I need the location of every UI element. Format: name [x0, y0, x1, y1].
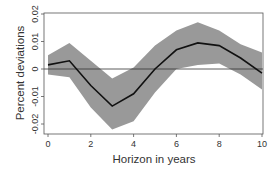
y-axis-label: Percent deviations [14, 25, 26, 120]
y-tick-label: 0.01 [30, 33, 40, 51]
x-tick-label: 6 [174, 139, 179, 149]
x-axis-label: Horizon in years [112, 153, 195, 165]
x-tick-label: 10 [257, 139, 267, 149]
x-tick-label: 0 [45, 139, 50, 149]
y-tick-label: -0.01 [30, 86, 40, 107]
x-tick-label: 8 [217, 139, 222, 149]
x-tick-label: 4 [131, 139, 136, 149]
impulse-response-chart: 0246810 -0.02-0.0100.010.02 Horizon in y… [0, 0, 278, 170]
y-tick-label: 0 [30, 66, 40, 71]
x-tick-label: 2 [88, 139, 93, 149]
x-axis-ticks: 0246810 [45, 134, 267, 149]
y-tick-label: -0.02 [30, 114, 40, 135]
y-axis-ticks: -0.02-0.0100.010.02 [30, 5, 44, 134]
y-tick-label: 0.02 [30, 5, 40, 23]
confidence-band [48, 22, 262, 129]
